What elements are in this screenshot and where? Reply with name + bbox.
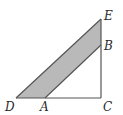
label-A: A bbox=[39, 100, 49, 114]
label-B: B bbox=[103, 39, 113, 53]
segment-DE bbox=[16, 19, 101, 98]
label-C: C bbox=[103, 100, 112, 114]
geometry-diagram: E B C D A bbox=[0, 0, 123, 115]
label-D: D bbox=[4, 100, 15, 114]
label-E: E bbox=[103, 9, 113, 23]
